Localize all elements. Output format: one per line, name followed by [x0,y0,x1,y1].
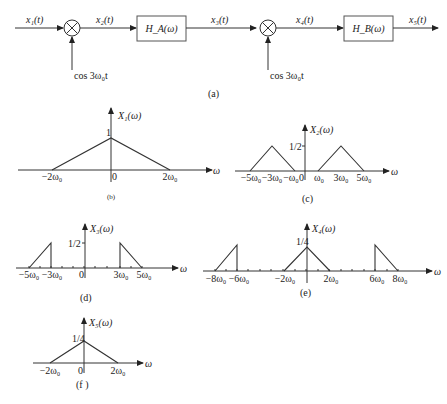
caption-e: (e) [300,287,311,299]
tick-label: −2ω₀ [275,273,296,284]
origin-label: 0 [78,365,83,376]
spectrum-left [29,243,51,268]
carrier-label-1: cos 3ω₀t [74,70,108,81]
tick-label: 5ω₀ [356,172,372,183]
tick-label: −3ω₀ [42,269,63,280]
plot-e: X₄(ω) 1/4 ω −8ω₀ −6ω₀ −2ω₀ 2ω₀ 6ω₀ 8ω₀ (… [203,223,441,299]
caption-c: (c) [302,193,313,205]
signal-label-x3: x₃(t) [210,14,229,26]
peak-label: 1/4 [296,236,309,247]
block-diagram: x₁(t) cos 3ω₀t x₂(t) H_A(ω) x₃(t) cos 3ω… [15,14,438,100]
tick-label: −6ω₀ [229,273,250,284]
y-label: X₁(ω) [117,110,142,122]
y-label: X₃(ω) [89,223,114,235]
tick-label: 2ω₀ [162,171,178,182]
plot-c: X₂(ω) 1/2 ω 0 −5ω₀ −3ω₀ −ω₀ ω₀ 3ω₀ 5ω₀ (… [235,124,398,205]
y-label: X₂(ω) [309,124,334,136]
spectrum-right [120,243,142,268]
origin-label: 0 [79,269,84,280]
peak-label: 1/2 [68,238,81,249]
signal-label-x2: x₂(t) [95,14,114,26]
tick-label: −ω₀ [283,172,299,183]
tick-label: 6ω₀ [369,273,385,284]
caption-b: (b) [107,193,116,201]
signal-label-x5: x₅(t) [408,14,427,26]
tick-label: −2ω₀ [40,365,61,376]
peak-label: 1/2 [289,141,302,152]
caption-f: (f ) [76,379,89,391]
tick-label: 3ω₀ [333,172,349,183]
y-label: X₅(ω) [88,317,113,329]
tick-label: −3ω₀ [262,172,283,183]
tick-label: 2ω₀ [110,365,126,376]
filter-label-hb: H_B(ω) [351,23,385,35]
multiplier-icon [260,20,276,36]
tick-label: 3ω₀ [113,269,129,280]
plot-b: X₁(ω) 1 0 ω −2ω₀ 2ω₀ (b) [18,108,220,201]
carrier-label-2: cos 3ω₀t [270,70,304,81]
plot-f: X₅(ω) 1/4 ω 0 −2ω₀ 2ω₀ (f ) [33,317,152,391]
spectrum-triangle-right [318,146,364,171]
figure-canvas: x₁(t) cos 3ω₀t x₂(t) H_A(ω) x₃(t) cos 3ω… [0,0,447,404]
caption-d: (d) [80,292,92,304]
y-label: X₄(ω) [311,223,336,235]
tick-label: −5ω₀ [241,172,262,183]
signal-label-x4: x₄(t) [295,14,314,26]
peak-label: 1 [106,127,111,138]
filter-label-ha: H_A(ω) [144,23,178,35]
x-label: ω [434,266,441,277]
tick-label: −8ω₀ [206,273,227,284]
spectrum-left [215,245,237,271]
spectrum-right [375,245,398,271]
signal-label-x1: x₁(t) [25,14,44,26]
x-label: ω [145,358,152,369]
plot-d: X₃(ω) 1/2 ω 0 −5ω₀ −3ω₀ 3ω₀ 5ω₀ (d) [16,223,187,304]
multiplier-icon [64,20,80,36]
tick-label: −2ω₀ [42,171,63,182]
origin-label: 0 [299,172,304,183]
x-label: ω [391,166,398,177]
tick-label: 5ω₀ [136,269,152,280]
origin-label: 0 [112,171,117,182]
tick-label: ω₀ [314,172,325,183]
tick-label: 8ω₀ [392,273,408,284]
peak-label: 1/4 [72,333,85,344]
x-label: ω [180,263,187,274]
x-label: ω [213,165,220,176]
tick-label: 2ω₀ [323,273,339,284]
caption-a: (a) [208,88,219,100]
tick-label: −5ω₀ [19,269,40,280]
